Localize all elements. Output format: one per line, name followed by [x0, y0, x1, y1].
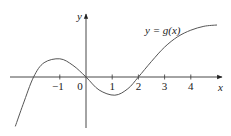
x-tick-label: 2	[136, 80, 142, 92]
curve-label: y = g(x)	[144, 24, 181, 37]
x-tick-label: 4	[188, 80, 194, 92]
x-tick-label: −1	[52, 80, 64, 92]
y-axis-label: y	[76, 10, 82, 22]
x-axis-tick-labels: −101234	[52, 80, 194, 92]
x-tick-label: 1	[109, 80, 115, 92]
x-tick-label: 3	[162, 80, 168, 92]
graph-of-g: −101234 x y y = g(x)	[0, 0, 231, 136]
g-curve	[15, 25, 217, 126]
x-axis-label: x	[217, 81, 223, 93]
x-tick-label: 0	[77, 80, 83, 92]
